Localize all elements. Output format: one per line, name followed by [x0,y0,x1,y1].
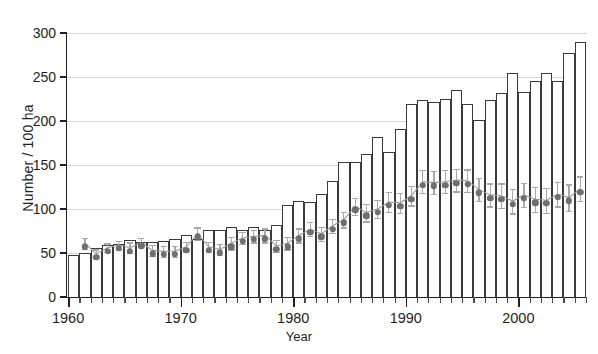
error-bar-cap [510,213,516,214]
x-axis-minor-tick [214,297,215,303]
x-axis-minor-tick [192,297,193,303]
x-axis-minor-tick [158,297,159,303]
error-bar-cap [374,218,380,219]
x-axis-minor-tick [350,297,351,303]
error-bar-cap [374,200,380,201]
error-bar-cap [419,193,425,194]
x-axis-minor-tick [282,297,283,303]
error-bar-cap [397,193,403,194]
error-bar-cap [82,238,88,239]
error-bar-cap [363,204,369,205]
error-bar-cap [228,249,234,250]
error-bar-cap [341,212,347,213]
x-axis-major-tick [518,297,519,307]
y-axis-tick-label: 300 [33,25,56,41]
x-axis-tick-label: 2000 [502,310,534,326]
error-bar-cap [318,227,324,228]
error-bar-cap [352,198,358,199]
x-axis-major-tick [406,297,407,307]
y-axis-tick [60,208,67,209]
error-bar-cap [217,244,223,245]
x-axis-minor-tick [338,297,339,303]
x-axis-minor-tick [147,297,148,303]
error-bar-cap [543,213,549,214]
x-axis-minor-tick [563,297,564,303]
error-bar-cap [116,241,122,242]
error-bar-cap [352,215,358,216]
x-axis-minor-tick [124,297,125,303]
error-bar-cap [408,186,414,187]
x-axis-minor-tick [304,297,305,303]
x-axis-minor-tick [372,297,373,303]
error-bar-cap [566,211,572,212]
x-axis-minor-tick [507,297,508,303]
error-bar-cap [127,242,133,243]
trend-polyline [85,180,580,254]
x-axis-minor-tick [530,297,531,303]
error-bar-cap [577,201,583,202]
error-bar-cap [172,246,178,247]
x-axis-minor-tick [552,297,553,303]
y-axis-tick-label: 100 [33,201,56,217]
error-bar-cap [307,222,313,223]
error-bar-cap [442,170,448,171]
error-bar-cap [532,187,538,188]
x-axis-tick-label: 1980 [277,310,309,326]
x-axis-title: Year [0,329,598,344]
error-bar-cap [318,241,324,242]
error-bar-cap [363,221,369,222]
error-bar-cap [498,208,504,209]
x-axis-minor-tick [226,297,227,303]
error-bar-cap [329,219,335,220]
x-axis-tick-label: 1970 [165,310,197,326]
y-axis-tick-label: 200 [33,113,56,129]
x-axis-minor-tick [417,297,418,303]
error-bar-cap [206,242,212,243]
x-axis-minor-tick [259,297,260,303]
error-bar-cap [273,252,279,253]
y-axis-tick [60,252,67,253]
error-bar-cap [555,182,561,183]
error-bar-cap [239,244,245,245]
error-bar-cap [521,207,527,208]
error-bar-cap [419,170,425,171]
x-axis-tick-label: 1990 [390,310,422,326]
y-axis-tick-label: 150 [33,157,56,173]
error-bar-cap [138,238,144,239]
error-bar-cap [104,243,110,244]
x-axis-minor-tick [79,297,80,303]
error-bar-cap [566,184,572,185]
x-axis-minor-tick [102,297,103,303]
y-axis-tick-label: 0 [48,289,56,305]
x-axis-minor-tick [361,297,362,303]
x-axis-minor-tick [451,297,452,303]
error-bar-cap [251,230,257,231]
error-bar-cap [521,183,527,184]
x-axis-minor-tick [169,297,170,303]
x-axis-minor-tick [428,297,429,303]
error-bar-cap [431,171,437,172]
x-axis-minor-tick [462,297,463,303]
error-bar-cap [487,183,493,184]
marker-trend-line [67,33,587,297]
error-bar-cap [262,242,268,243]
y-axis-tick [60,32,67,33]
x-axis-minor-tick [327,297,328,303]
error-bar-cap [149,245,155,246]
plot-area: 050100150200250300 19601970198019902000 [66,33,587,298]
error-bar-cap [273,240,279,241]
y-axis-tick-label: 250 [33,69,56,85]
x-axis-minor-tick [395,297,396,303]
y-axis-tick [60,296,67,297]
error-bar-cap [386,192,392,193]
x-axis-minor-tick [541,297,542,303]
error-bar-cap [510,189,516,190]
error-bar-cap [251,242,257,243]
error-bar-cap [487,206,493,207]
x-axis-minor-tick [113,297,114,303]
error-bar-cap [577,176,583,177]
chart-figure: Number / 100 ha Year 050100150200250300 … [0,0,598,354]
error-bar-cap [296,242,302,243]
error-bar-cap [161,246,167,247]
error-bar-cap [476,201,482,202]
